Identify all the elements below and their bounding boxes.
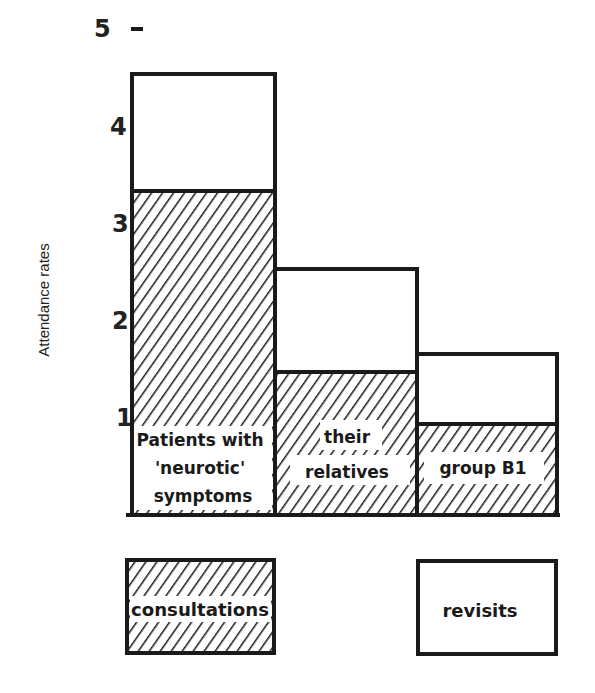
bar-segment-revisits — [132, 74, 275, 191]
bar-label: group B1 — [439, 458, 526, 478]
bar-segment-revisits — [417, 354, 557, 424]
y-tick-3: 3 — [112, 210, 129, 238]
y-axis-label: Attendance rates — [35, 243, 52, 356]
legend-item-consultations: consultations — [127, 560, 274, 653]
bar-patients-neurotic: Patients with 'neurotic' symptoms — [132, 74, 275, 515]
bar-segment-revisits — [275, 269, 417, 372]
legend-label-revisits: revisits — [442, 600, 517, 621]
legend: consultations revisits — [127, 560, 556, 654]
legend-item-revisits: revisits — [418, 561, 556, 654]
legend-label-consultations: consultations — [131, 599, 269, 620]
bar-label: Patients with 'neurotic' symptoms — [137, 430, 270, 506]
y-tick-2: 2 — [112, 307, 129, 335]
attendance-chart: Attendance rates 5 4 3 2 1 Patients with… — [0, 0, 595, 693]
y-tick-4: 4 — [110, 113, 127, 141]
y-tick-5: 5 — [94, 15, 111, 43]
bar-their-relatives: their relatives — [275, 269, 417, 515]
bar-group-b1: group B1 — [417, 354, 557, 515]
